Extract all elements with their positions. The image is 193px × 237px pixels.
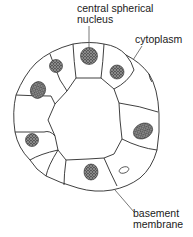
nucleus-left-lower xyxy=(26,134,39,147)
label-cytoplasm: cytoplasm xyxy=(135,34,182,45)
label-nucleus-line2: nucleus xyxy=(77,14,153,25)
leader-basement xyxy=(115,190,134,212)
nucleus-bottom xyxy=(84,164,98,180)
leader-cytoplasm xyxy=(133,46,142,60)
nucleus-right xyxy=(131,120,155,142)
nucleus-top xyxy=(81,48,98,65)
label-basement-line2: membrane xyxy=(133,219,183,230)
vacuole-bottom-right xyxy=(118,165,129,174)
label-central-spherical-nucleus: central spherical nucleus xyxy=(77,3,153,25)
nucleus-top-left xyxy=(50,60,63,73)
lumen-boundary xyxy=(48,78,122,160)
nucleus-left-upper xyxy=(28,79,48,100)
nucleus-top-right xyxy=(110,65,124,79)
label-basement-membrane: basement membrane xyxy=(133,208,183,230)
